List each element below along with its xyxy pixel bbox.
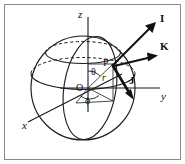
point-p-label: P xyxy=(103,58,109,68)
x-axis-label: x xyxy=(22,120,27,131)
vector-j-label: J xyxy=(129,75,135,86)
origin-label: O xyxy=(76,83,83,93)
point-p-marker xyxy=(111,63,114,66)
radius-label: r xyxy=(102,74,106,84)
y-axis-label: y xyxy=(161,91,166,102)
vector-i-label: I xyxy=(160,13,164,24)
z-axis-label: z xyxy=(78,9,82,20)
figure-canvas xyxy=(0,0,185,164)
vector-k-label: K xyxy=(160,41,169,52)
theta-label: θ xyxy=(91,67,96,77)
figure-frame: z y x O P θ ϕ r I K J xyxy=(0,0,185,164)
phi-label: ϕ xyxy=(85,96,90,106)
